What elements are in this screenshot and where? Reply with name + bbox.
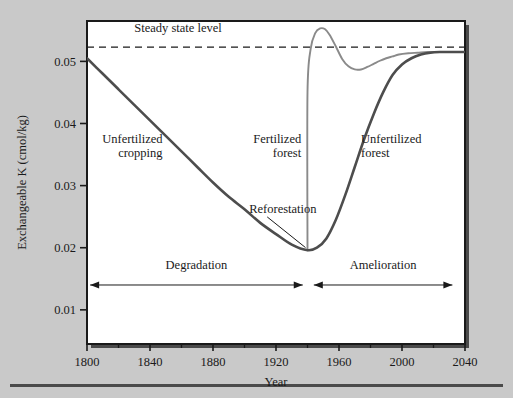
figure-container: 1800184018801920196020002040 0.010.020.0…: [0, 0, 513, 398]
annotation-line-2: forest: [361, 146, 390, 160]
bottom-divider-rule: [10, 384, 503, 387]
x-tick-label: 2040: [453, 355, 478, 369]
x-tick-label: 1840: [138, 355, 163, 369]
x-tick-label: 1800: [75, 355, 100, 369]
x-tick-label: 1880: [201, 355, 226, 369]
y-axis-title: Exchangeable K (cmol/kg): [15, 115, 29, 250]
x-tick-label: 1960: [327, 355, 352, 369]
annotation-line-1: Unfertilized: [102, 132, 163, 146]
phase-label-amelioration: Amelioration: [350, 258, 417, 272]
annotation-line-2: forest: [273, 146, 302, 160]
annotation-steady-state: Steady state level: [134, 21, 222, 35]
y-tick-label: 0.05: [54, 55, 76, 69]
plot-area-background: [87, 21, 465, 344]
y-tick-label: 0.02: [54, 241, 76, 255]
annotation-reforestation: Reforestation: [249, 202, 317, 216]
x-axis-title: Year: [264, 375, 288, 389]
x-tick-label: 2000: [390, 355, 415, 369]
y-tick-label: 0.03: [54, 179, 76, 193]
annotation-line-2: cropping: [118, 146, 163, 160]
y-tick-label: 0.01: [54, 303, 76, 317]
y-tick-label: 0.04: [54, 117, 77, 131]
exchangeable-potassium-chart: 1800184018801920196020002040 0.010.020.0…: [0, 0, 513, 398]
phase-label-degradation: Degradation: [166, 258, 229, 272]
annotation-line-1: Unfertilized: [361, 132, 422, 146]
annotation-line-1: Fertilized: [253, 132, 302, 146]
x-tick-label: 1920: [264, 355, 289, 369]
